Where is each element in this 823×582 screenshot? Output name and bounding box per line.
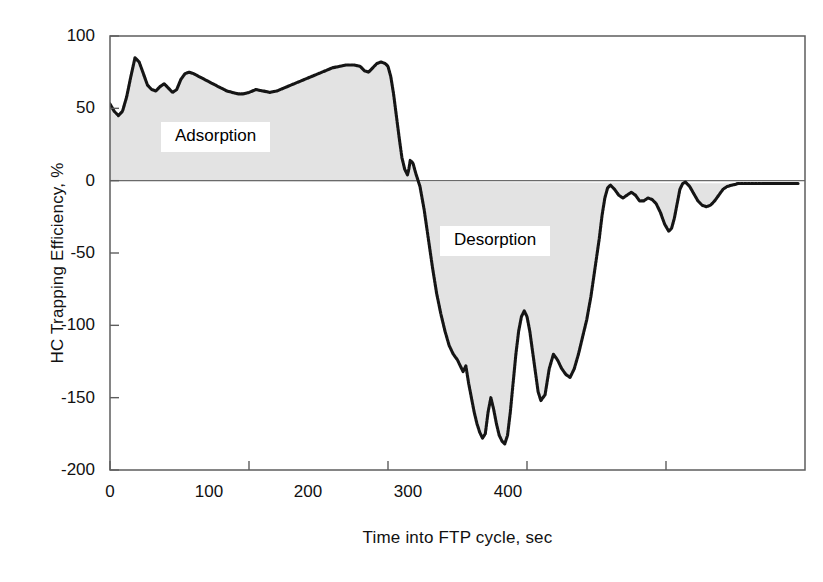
y-axis-ticks (110, 36, 119, 470)
x-tick-label-400: 400 (478, 482, 538, 502)
x-tick-label-200: 200 (278, 482, 338, 502)
chart-figure: 100 50 0 -50 -100 -150 -200 0 100 200 30… (0, 0, 823, 582)
x-axis-title: Time into FTP cycle, sec (110, 528, 805, 548)
x-axis-ticks (110, 461, 666, 470)
y-tick-label-100: 100 (25, 26, 95, 46)
x-tick-label-100: 100 (179, 482, 239, 502)
y-axis-title: HC Trapping Efficiency, % (48, 113, 68, 413)
annotation-adsorption: Adsorption (161, 122, 270, 152)
annotation-desorption: Desorption (440, 226, 550, 256)
x-tick-label-0: 0 (80, 482, 140, 502)
y-tick-label-neg200: -200 (25, 460, 95, 480)
x-tick-label-300: 300 (378, 482, 438, 502)
